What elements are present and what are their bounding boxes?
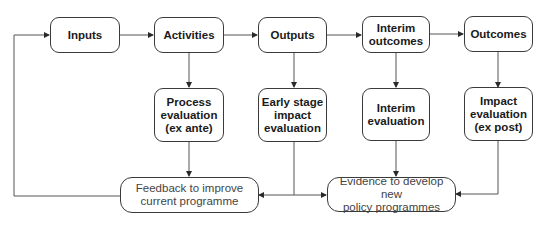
stage-outcomes: Outcomes xyxy=(464,16,533,52)
stage-inputs: Inputs xyxy=(50,17,120,53)
result-feedback: Feedback to improve current programme xyxy=(120,177,259,213)
result-evidence: Evidence to develop new policy programme… xyxy=(327,177,456,212)
evaluation-early-stage-impact: Early stage impact evaluation xyxy=(258,88,327,142)
stage-activities: Activities xyxy=(154,17,224,53)
evaluation-impact: Impact evaluation (ex post) xyxy=(464,87,533,141)
stage-interim-outcomes: Interim outcomes xyxy=(362,16,430,53)
evaluation-process: Process evaluation (ex ante) xyxy=(154,88,224,142)
evaluation-interim: Interim evaluation xyxy=(362,88,430,141)
stage-outputs: Outputs xyxy=(258,17,327,53)
